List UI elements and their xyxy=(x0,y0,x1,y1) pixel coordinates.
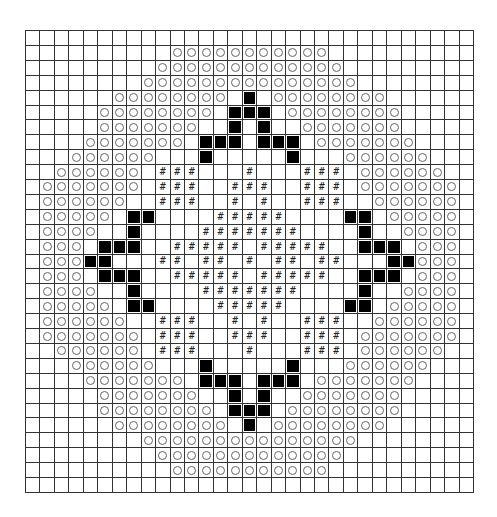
grid-cell xyxy=(272,106,286,121)
grid-cell xyxy=(55,61,69,76)
circle-icon xyxy=(431,180,445,195)
circle-icon xyxy=(402,225,416,240)
grid-cell xyxy=(402,76,416,91)
grid-cell xyxy=(185,359,199,374)
grid-cell xyxy=(199,344,213,359)
grid-cell xyxy=(40,478,54,493)
grid-cell xyxy=(373,46,387,61)
circle-icon xyxy=(98,299,112,314)
circle-icon xyxy=(142,150,156,165)
grid-cell xyxy=(142,195,156,210)
grid-cell xyxy=(344,240,358,255)
grid-cell xyxy=(460,91,474,106)
circle-icon xyxy=(113,180,127,195)
hash-symbol: # xyxy=(257,210,271,225)
circle-icon xyxy=(431,210,445,225)
circle-icon xyxy=(358,106,372,121)
grid-cell xyxy=(113,46,127,61)
circle-icon xyxy=(214,91,228,106)
circle-icon xyxy=(344,150,358,165)
circle-icon xyxy=(84,329,98,344)
grid-cell xyxy=(185,478,199,493)
grid-cell xyxy=(243,150,257,165)
circle-icon xyxy=(373,404,387,419)
circle-icon xyxy=(373,389,387,404)
grid-cell xyxy=(301,135,315,150)
hash-symbol: # xyxy=(171,269,185,284)
grid-cell xyxy=(272,165,286,180)
grid-cell xyxy=(26,448,40,463)
grid-cell xyxy=(445,359,459,374)
circle-icon xyxy=(387,165,401,180)
circle-icon xyxy=(301,91,315,106)
hash-symbol: # xyxy=(301,269,315,284)
grid-cell xyxy=(460,61,474,76)
grid-cell xyxy=(199,31,213,46)
hash-symbol: # xyxy=(171,329,185,344)
circle-icon xyxy=(373,150,387,165)
circle-icon xyxy=(113,418,127,433)
circle-icon xyxy=(199,463,213,478)
filled-square-icon xyxy=(127,225,141,240)
filled-square-icon xyxy=(286,150,300,165)
grid-cell xyxy=(286,299,300,314)
grid-cell xyxy=(185,284,199,299)
grid-cell xyxy=(402,389,416,404)
circle-icon xyxy=(315,76,329,91)
circle-icon xyxy=(142,359,156,374)
grid-cell xyxy=(460,374,474,389)
grid-cell xyxy=(156,210,170,225)
circle-icon xyxy=(416,180,430,195)
hash-symbol: # xyxy=(228,240,242,255)
circle-icon xyxy=(445,195,459,210)
grid-cell xyxy=(460,255,474,270)
grid-cell xyxy=(329,269,343,284)
circle-icon xyxy=(402,284,416,299)
hash-symbol: # xyxy=(228,225,242,240)
circle-icon xyxy=(402,374,416,389)
circle-icon xyxy=(185,404,199,419)
circle-icon xyxy=(127,374,141,389)
circle-icon xyxy=(373,314,387,329)
circle-icon xyxy=(272,448,286,463)
grid-cell xyxy=(84,240,98,255)
grid-cell xyxy=(142,255,156,270)
hash-symbol: # xyxy=(243,344,257,359)
grid-cell xyxy=(402,463,416,478)
grid-cell xyxy=(460,225,474,240)
filled-square-icon xyxy=(344,299,358,314)
circle-icon xyxy=(344,418,358,433)
circle-icon xyxy=(315,61,329,76)
circle-icon xyxy=(156,135,170,150)
circle-icon xyxy=(127,359,141,374)
grid-cell xyxy=(142,463,156,478)
circle-icon xyxy=(315,448,329,463)
grid-cell xyxy=(344,225,358,240)
hash-symbol: # xyxy=(272,269,286,284)
grid-cell xyxy=(98,418,112,433)
grid-cell xyxy=(98,31,112,46)
circle-icon xyxy=(358,404,372,419)
grid-cell xyxy=(243,478,257,493)
circle-icon xyxy=(69,299,83,314)
grid-cell xyxy=(98,284,112,299)
grid-cell xyxy=(40,404,54,419)
grid-cell xyxy=(26,150,40,165)
hash-symbol: # xyxy=(257,329,271,344)
hash-symbol: # xyxy=(315,195,329,210)
grid-cell xyxy=(402,120,416,135)
grid-cell xyxy=(171,284,185,299)
grid-cell xyxy=(460,76,474,91)
grid-cell xyxy=(445,120,459,135)
circle-icon xyxy=(214,463,228,478)
grid-cell xyxy=(460,46,474,61)
hash-symbol: # xyxy=(315,269,329,284)
circle-icon xyxy=(358,329,372,344)
circle-icon xyxy=(286,76,300,91)
grid-cell xyxy=(460,299,474,314)
circle-icon xyxy=(185,448,199,463)
circle-icon xyxy=(40,210,54,225)
grid-cell xyxy=(69,448,83,463)
grid-cell xyxy=(460,389,474,404)
grid-cell xyxy=(286,180,300,195)
